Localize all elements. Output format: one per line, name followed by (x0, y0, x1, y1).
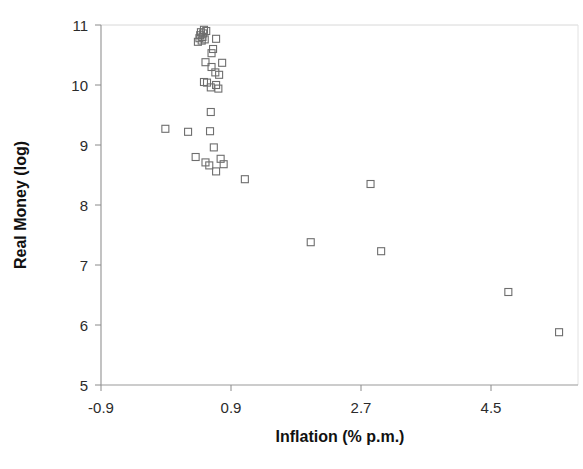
x-axis-title: Inflation (% p.m.) (276, 428, 405, 445)
scatter-chart: 11 10 9 8 7 6 5 -0.9 0.9 2.7 4.5 Inflati… (0, 0, 583, 469)
y-tick-label-9: 9 (80, 137, 88, 154)
y-tick-label-6: 6 (80, 317, 88, 334)
y-tick-label-8: 8 (80, 197, 88, 214)
y-axis-title: Real Money (log) (12, 141, 29, 269)
x-tick-label-neg0-9: -0.9 (88, 399, 114, 416)
y-tick-label-10: 10 (71, 77, 88, 94)
x-tick-label-2-7: 2.7 (351, 399, 372, 416)
x-tick-label-0-9: 0.9 (221, 399, 242, 416)
plot-canvas: 11 10 9 8 7 6 5 -0.9 0.9 2.7 4.5 Inflati… (0, 0, 583, 469)
y-tick-label-7: 7 (80, 257, 88, 274)
y-tick-label-11: 11 (72, 17, 88, 34)
y-tick-label-5: 5 (80, 377, 88, 394)
x-tick-label-4-5: 4.5 (481, 399, 502, 416)
